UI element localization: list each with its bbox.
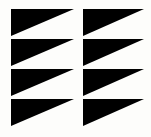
logo-mark-svg [0,0,151,137]
logo-canvas: Logo mark: four stacked rows of paired r… [0,0,151,137]
